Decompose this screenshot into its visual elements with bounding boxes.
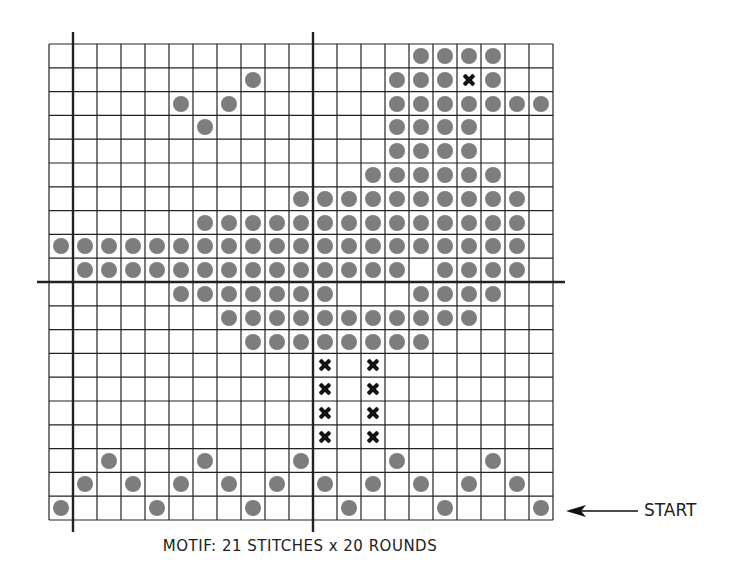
- cross-icon: [365, 357, 381, 373]
- dot-icon: [389, 143, 405, 159]
- dot-icon: [197, 262, 213, 278]
- dot-icon: [317, 286, 333, 302]
- dot-icon: [293, 310, 309, 326]
- dot-icon: [413, 96, 429, 112]
- dot-icon: [437, 310, 453, 326]
- dot-icon: [485, 48, 501, 64]
- dot-icon: [437, 215, 453, 231]
- chart-grid-diagram: [0, 0, 737, 577]
- dot-icon: [509, 96, 525, 112]
- dot-icon: [437, 191, 453, 207]
- dot-icon: [173, 262, 189, 278]
- dot-icon: [413, 167, 429, 183]
- dot-icon: [293, 286, 309, 302]
- dot-icon: [461, 215, 477, 231]
- dot-icon: [317, 310, 333, 326]
- chart-caption: MOTIF: 21 STITCHES x 20 ROUNDS: [0, 537, 600, 555]
- dot-icon: [293, 215, 309, 231]
- dot-icon: [389, 310, 405, 326]
- dot-icon: [437, 167, 453, 183]
- dot-icon: [197, 215, 213, 231]
- dot-icon: [413, 215, 429, 231]
- dot-icon: [365, 262, 381, 278]
- dot-icon: [221, 286, 237, 302]
- dot-icon: [293, 191, 309, 207]
- dot-icon: [413, 286, 429, 302]
- dot-icon: [485, 72, 501, 88]
- dot-icon: [485, 96, 501, 112]
- start-label: START: [644, 500, 696, 520]
- dot-icon: [77, 262, 93, 278]
- dot-icon: [317, 262, 333, 278]
- dot-icon: [245, 500, 261, 516]
- dot-icon: [437, 262, 453, 278]
- dot-icon: [413, 310, 429, 326]
- dot-icon: [293, 262, 309, 278]
- dot-icon: [485, 262, 501, 278]
- dot-icon: [293, 453, 309, 469]
- dot-icon: [413, 334, 429, 350]
- dot-icon: [317, 191, 333, 207]
- dot-icon: [269, 215, 285, 231]
- dot-icon: [389, 334, 405, 350]
- dot-icon: [245, 72, 261, 88]
- dot-icon: [293, 334, 309, 350]
- dot-icon: [389, 262, 405, 278]
- arrow-left-icon: [566, 502, 638, 520]
- dot-icon: [365, 215, 381, 231]
- dot-icon: [269, 334, 285, 350]
- dot-icon: [485, 286, 501, 302]
- dot-icon: [509, 215, 525, 231]
- dot-icon: [461, 48, 477, 64]
- dot-icon: [245, 286, 261, 302]
- dot-icon: [461, 167, 477, 183]
- cross-icon: [317, 405, 333, 421]
- dot-icon: [197, 453, 213, 469]
- dot-icon: [197, 286, 213, 302]
- dot-icon: [341, 310, 357, 326]
- dot-icon: [269, 286, 285, 302]
- dot-icon: [365, 310, 381, 326]
- dot-icon: [125, 262, 141, 278]
- cross-icon: [365, 405, 381, 421]
- dot-icon: [533, 96, 549, 112]
- cross-icon: [317, 381, 333, 397]
- dot-icon: [341, 215, 357, 231]
- dot-icon: [389, 453, 405, 469]
- dot-icon: [461, 310, 477, 326]
- cross-icon: [365, 381, 381, 397]
- dot-icon: [245, 262, 261, 278]
- dot-icon: [245, 334, 261, 350]
- dot-icon: [341, 334, 357, 350]
- dot-icon: [221, 96, 237, 112]
- dot-icon: [317, 334, 333, 350]
- dot-icon: [509, 191, 525, 207]
- dot-icon: [413, 143, 429, 159]
- dot-icon: [221, 310, 237, 326]
- dot-icon: [365, 334, 381, 350]
- dot-icon: [485, 191, 501, 207]
- dot-icon: [317, 215, 333, 231]
- dot-icon: [221, 262, 237, 278]
- dot-icon: [437, 48, 453, 64]
- dot-icon: [101, 262, 117, 278]
- dot-icon: [149, 262, 165, 278]
- dot-icon: [413, 48, 429, 64]
- dot-icon: [485, 453, 501, 469]
- dot-icon: [389, 72, 405, 88]
- cross-icon: [317, 357, 333, 373]
- dot-icon: [437, 286, 453, 302]
- dot-icon: [461, 96, 477, 112]
- dot-icon: [245, 215, 261, 231]
- dot-icon: [389, 215, 405, 231]
- dot-icon: [365, 167, 381, 183]
- dot-icon: [437, 72, 453, 88]
- dot-icon: [533, 500, 549, 516]
- dot-icon: [485, 167, 501, 183]
- dot-icon: [341, 191, 357, 207]
- dot-icon: [269, 262, 285, 278]
- dot-icon: [461, 262, 477, 278]
- dot-icon: [509, 262, 525, 278]
- dot-icon: [173, 96, 189, 112]
- cross-icon: [365, 429, 381, 445]
